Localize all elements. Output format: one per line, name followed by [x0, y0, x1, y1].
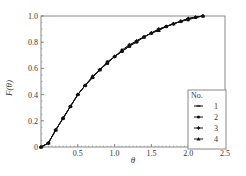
series-1	[39, 16, 205, 147]
legend-title: No.	[191, 91, 203, 100]
legend-label: 2	[214, 113, 218, 122]
series-line	[41, 16, 203, 147]
y-tick-label: 0.8	[28, 38, 38, 47]
x-tick-label: 0.5	[73, 149, 83, 158]
x-tick-label: 1.0	[110, 149, 120, 158]
data-series	[39, 14, 205, 149]
series-line	[41, 16, 203, 147]
chart: 00.20.40.60.81.0 0.51.01.52.02.5 F(θ) θ …	[0, 0, 246, 176]
series-line	[41, 16, 203, 147]
series-4	[39, 14, 205, 149]
y-tick-label: 0.4	[28, 91, 38, 100]
legend-label: 1	[214, 102, 218, 111]
series-3	[39, 14, 205, 149]
legend: No.1234	[188, 90, 226, 149]
y-tick-label: 0.6	[28, 64, 38, 73]
y-tick-label: 1.0	[28, 12, 38, 21]
x-axis-label: θ	[131, 155, 136, 165]
series-line	[41, 16, 203, 147]
marker-circle	[197, 115, 200, 118]
y-tick-label: 0.2	[28, 117, 38, 126]
x-tick-label: 1.5	[146, 149, 156, 158]
x-tick-label: 2.5	[220, 149, 230, 158]
series-2	[39, 14, 204, 148]
y-axis-label: F(θ)	[4, 80, 14, 97]
legend-label: 3	[214, 124, 218, 133]
y-axis: 00.20.40.60.81.0	[28, 12, 44, 152]
x-tick-label: 2.0	[183, 149, 193, 158]
y-tick-label: 0	[34, 143, 38, 152]
legend-label: 4	[214, 135, 218, 144]
